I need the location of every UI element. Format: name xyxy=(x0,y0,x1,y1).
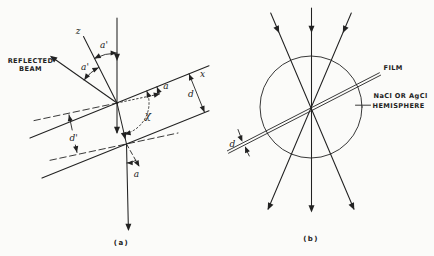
alpha-prime-arcs: a' a' xyxy=(81,40,117,81)
panel-b: FILM d NaCl OR AgCl HEMISPHERE (b) xyxy=(227,8,427,243)
alpha-prime-reflected-label: a' xyxy=(81,62,89,72)
arrowhead xyxy=(265,202,273,211)
z-axis-label: z xyxy=(75,26,81,36)
hemisphere-label: NaCl OR AgCl xyxy=(374,92,428,100)
arrowhead xyxy=(66,114,72,121)
film-surfaces: x xyxy=(30,66,209,178)
chi-angle-label: χ xyxy=(144,109,152,121)
arrowhead xyxy=(114,54,120,61)
arrowhead xyxy=(127,160,133,165)
film-bottom-surface xyxy=(42,111,209,178)
figure-canvas: z REFLECTED BEAM x a xyxy=(0,0,434,256)
diffraction-figure: z REFLECTED BEAM x a xyxy=(0,0,434,256)
arrowhead xyxy=(114,127,120,134)
panel-a: z REFLECTED BEAM x a xyxy=(8,18,209,247)
hemisphere-label-2: HEMISPHERE xyxy=(373,102,425,110)
chi-angle: χ xyxy=(124,90,152,137)
film-thickness-measure-b: d xyxy=(230,130,250,157)
lattice-plane-upper xyxy=(34,103,117,121)
alpha-tilt-label: a xyxy=(163,81,168,91)
exit-beam: a xyxy=(125,144,141,231)
panel-b-caption: (b) xyxy=(303,235,319,243)
plane-spacing-label: d' xyxy=(69,133,77,143)
internal-beams xyxy=(114,103,128,144)
arrowhead xyxy=(125,224,131,231)
arrowhead xyxy=(349,202,357,211)
film-thickness-label-b: d xyxy=(230,139,236,149)
arrowhead xyxy=(273,25,281,34)
beam-left xyxy=(271,13,357,211)
reflected-beam-label: REFLECTED xyxy=(8,57,54,65)
alpha-exit-label: a xyxy=(134,169,139,179)
arrowhead xyxy=(243,145,250,153)
film-thickness-measure: d xyxy=(187,73,207,113)
film-label: FILM xyxy=(384,64,403,72)
incident-beam xyxy=(114,18,120,103)
alpha-prime-incident-label: a' xyxy=(100,40,108,50)
reflected-beam-label-2: BEAM xyxy=(19,65,42,73)
arrowhead xyxy=(309,26,315,33)
hemisphere-annotation: NaCl OR AgCl HEMISPHERE xyxy=(356,92,428,110)
reflected-beam: REFLECTED BEAM xyxy=(8,53,117,103)
x-axis-label: x xyxy=(200,69,205,79)
arrowhead xyxy=(340,25,348,34)
plane-spacing-measure: d' xyxy=(66,114,79,153)
arrowhead xyxy=(73,146,79,153)
arrowhead xyxy=(309,205,315,212)
panel-a-caption: (a) xyxy=(114,239,129,247)
film-thickness-label: d xyxy=(188,89,194,99)
arrowhead xyxy=(238,135,245,143)
